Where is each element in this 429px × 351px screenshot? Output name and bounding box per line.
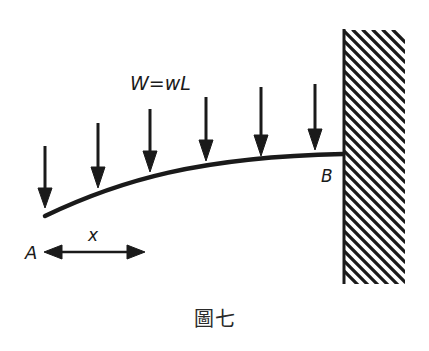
point-a-label: A	[24, 242, 37, 263]
fixed-wall-support	[343, 29, 405, 332]
load-arrow-3-icon	[143, 109, 157, 172]
load-arrow-2-icon	[91, 123, 105, 188]
load-arrow-6-icon	[308, 84, 322, 150]
beam-curve	[45, 154, 343, 216]
point-b-label: B	[321, 166, 333, 186]
load-arrow-4-icon	[199, 97, 213, 161]
load-arrow-5-icon	[254, 87, 268, 156]
load-arrows	[38, 84, 322, 208]
load-label: W=wL	[130, 72, 191, 94]
figure-caption: 圖七	[0, 303, 429, 332]
dimension-double-arrow-icon	[44, 245, 145, 259]
distance-x-label: x	[87, 225, 99, 245]
load-arrow-1-icon	[38, 146, 52, 208]
cantilever-beam-diagram: W=wL B A x	[0, 0, 429, 351]
